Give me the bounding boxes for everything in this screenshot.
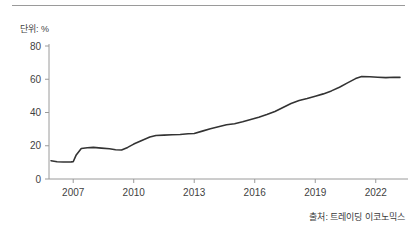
y-tick-label: 20 (30, 140, 42, 151)
source-note: 출처: 트레이딩 이코노믹스 (309, 210, 405, 223)
x-axis: 200720102013201620192022 (49, 179, 408, 198)
x-tick-label: 2016 (244, 187, 267, 198)
x-tick-label: 2007 (62, 187, 85, 198)
x-tick-label: 2022 (365, 187, 388, 198)
y-tick-label: 80 (30, 41, 42, 52)
y-tick-label: 0 (35, 174, 41, 185)
x-tick-label: 2019 (304, 187, 327, 198)
x-tick-label: 2010 (123, 187, 146, 198)
y-axis: 020406080 (30, 41, 49, 185)
y-tick-label: 40 (30, 107, 42, 118)
y-tick-label: 60 (30, 74, 42, 85)
data-series-line (51, 77, 400, 162)
series-line-value (51, 77, 400, 162)
x-tick-label: 2013 (183, 187, 206, 198)
